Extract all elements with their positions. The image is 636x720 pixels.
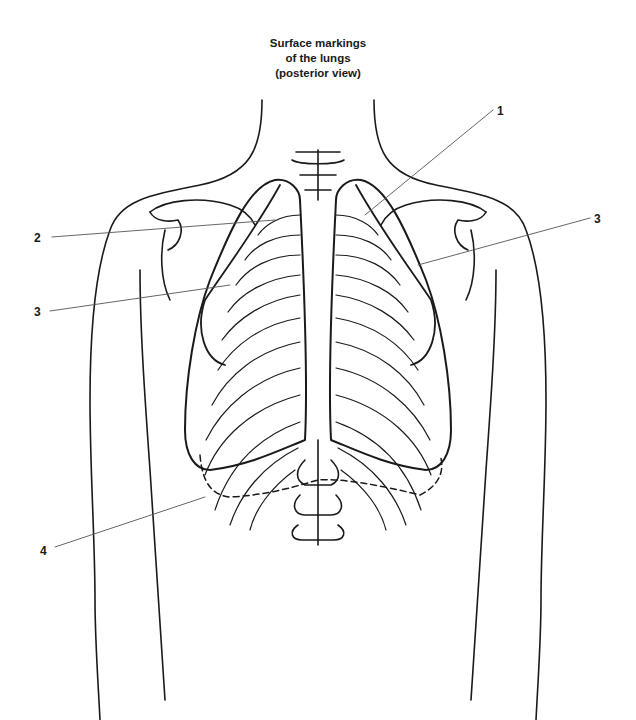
label-3-left: 3 (34, 305, 41, 319)
ribs-left (205, 215, 300, 530)
label-4: 4 (40, 544, 47, 558)
label-1: 1 (497, 104, 504, 118)
lung-posterior-illustration (0, 0, 636, 720)
label-2: 2 (34, 231, 41, 245)
ribs-right (336, 215, 431, 530)
label-3-right: 3 (594, 212, 601, 226)
